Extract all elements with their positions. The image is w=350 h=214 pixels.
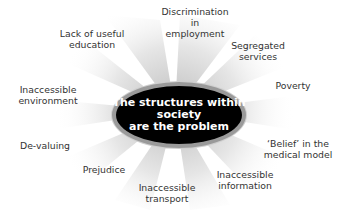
spoke-label-line: De-valuing: [20, 140, 70, 151]
spoke-label-line: services: [231, 51, 285, 62]
spoke-label-belief: ‘Belief’ in themedical model: [264, 138, 333, 160]
spoke-label-education: Lack of usefuleducation: [60, 28, 124, 50]
spoke-label-line: Inaccessible: [18, 84, 77, 95]
spoke-label-line: in: [161, 17, 228, 28]
center-text-line: are the problem: [129, 121, 229, 133]
spoke-label-line: environment: [18, 95, 77, 106]
spoke-label-line: Prejudice: [83, 164, 126, 175]
spoke-label-line: medical model: [264, 149, 333, 160]
spoke-label-line: information: [217, 180, 274, 191]
spoke-label-line: Segregated: [231, 40, 285, 51]
spoke-label-transport: Inaccessibletransport: [139, 182, 196, 204]
spoke-label-line: Inaccessible: [217, 169, 274, 180]
spoke-label-environment: Inaccessibleenvironment: [18, 84, 77, 106]
spoke-label-discrimination: Discriminationinemployment: [161, 6, 228, 39]
spoke-label-prejudice: Prejudice: [83, 164, 126, 175]
spoke-label-info: Inaccessibleinformation: [217, 169, 274, 191]
spoke-label-poverty: Poverty: [275, 80, 310, 91]
spoke-label-line: education: [60, 39, 124, 50]
spoke-label-line: Discrimination: [161, 6, 228, 17]
spoke-label-line: employment: [161, 28, 228, 39]
spoke-label-line: transport: [139, 193, 196, 204]
center-ellipse: The structures within society are the pr…: [112, 82, 246, 148]
spoke-label-line: Lack of useful: [60, 28, 124, 39]
spoke-label-line: ‘Belief’ in the: [264, 138, 333, 149]
spoke-label-devaluing: De-valuing: [20, 140, 70, 151]
spoke-label-line: Poverty: [275, 80, 310, 91]
spoke-label-segregated: Segregatedservices: [231, 40, 285, 62]
spoke-label-line: Inaccessible: [139, 182, 196, 193]
